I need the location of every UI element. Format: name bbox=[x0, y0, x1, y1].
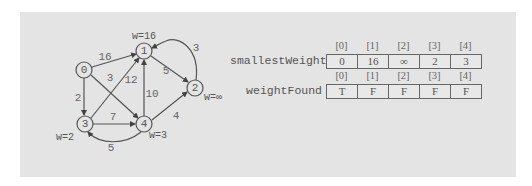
smallest-weight-label: smallestWeight bbox=[230, 54, 322, 67]
index-label: [0] bbox=[326, 70, 357, 81]
svg-text:2: 2 bbox=[192, 82, 199, 94]
edge-label-0-3: 2 bbox=[75, 92, 82, 104]
edge-2-1 bbox=[152, 40, 197, 80]
edge-label-2-1: 3 bbox=[193, 42, 200, 54]
edge-1-2 bbox=[151, 56, 188, 82]
svg-text:3: 3 bbox=[82, 118, 89, 130]
svg-text:4: 4 bbox=[141, 118, 148, 130]
edge-label-4-3: 5 bbox=[108, 142, 115, 154]
index-label: [3] bbox=[419, 70, 450, 81]
smallest-weight-indices: [0] [1] [2] [3] [4] bbox=[326, 40, 481, 51]
weight-found-indices: [0] [1] [2] [3] [4] bbox=[326, 70, 481, 81]
node-0: 0 bbox=[76, 62, 92, 78]
edge-3-1 bbox=[91, 58, 139, 118]
edge-label-4-2: 4 bbox=[173, 110, 180, 122]
node-weight-1: w=16 bbox=[132, 31, 156, 42]
index-label: [4] bbox=[450, 70, 481, 81]
node-weight-3: w=2 bbox=[56, 132, 74, 143]
svg-text:0: 0 bbox=[81, 64, 88, 76]
edge-label-0-4: 3 bbox=[107, 72, 114, 84]
array-cell: F bbox=[420, 85, 451, 98]
array-cell: 2 bbox=[420, 55, 451, 68]
array-cell: 16 bbox=[358, 55, 389, 68]
array-cell: 0 bbox=[327, 55, 358, 68]
index-label: [2] bbox=[388, 70, 419, 81]
node-1: 1 bbox=[136, 43, 152, 59]
array-cell: F bbox=[389, 85, 420, 98]
index-label: [1] bbox=[357, 40, 388, 51]
index-label: [0] bbox=[326, 40, 357, 51]
edge-label-3-1: 12 bbox=[124, 74, 137, 86]
index-label: [1] bbox=[357, 70, 388, 81]
svg-text:1: 1 bbox=[141, 45, 148, 57]
node-3: 3 bbox=[77, 116, 93, 132]
node-2: 2 bbox=[187, 80, 203, 96]
edge-label-4-1: 10 bbox=[145, 88, 158, 100]
edge-label-3-4: 7 bbox=[110, 111, 117, 123]
smallest-weight-array: 0 16 ∞ 2 3 bbox=[326, 54, 482, 69]
weight-found-array: T F F F F bbox=[326, 84, 482, 99]
node-weight-4: w=3 bbox=[149, 130, 167, 141]
array-cell: 3 bbox=[451, 55, 481, 68]
array-cell: F bbox=[358, 85, 389, 98]
index-label: [4] bbox=[450, 40, 481, 51]
array-cell: ∞ bbox=[389, 55, 420, 68]
index-label: [2] bbox=[388, 40, 419, 51]
array-cell: F bbox=[451, 85, 481, 98]
array-cell: T bbox=[327, 85, 358, 98]
weight-found-label: weightFound bbox=[230, 84, 322, 97]
node-weight-2: w=∞ bbox=[204, 92, 222, 103]
edge-label-0-1: 16 bbox=[98, 51, 111, 63]
edge-label-1-2: 5 bbox=[163, 65, 170, 77]
index-label: [3] bbox=[419, 40, 450, 51]
edge-4-3 bbox=[88, 132, 141, 142]
